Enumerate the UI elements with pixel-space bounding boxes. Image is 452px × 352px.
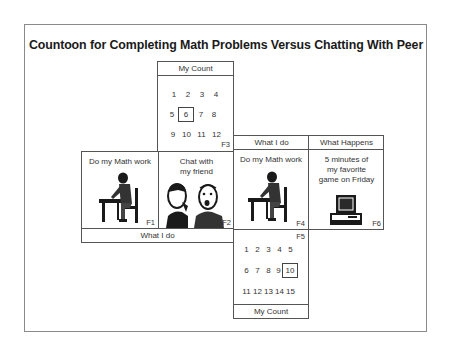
cell-f6-label-line1: 5 minutes of	[309, 155, 384, 165]
cell-f4-label: Do my Math work	[234, 155, 308, 165]
right-strip: What I do What Happens Do my Math work F…	[233, 135, 384, 230]
count-number: 8	[263, 266, 274, 275]
cell-f6-label-line2: my favorite	[309, 165, 384, 175]
top-count-box: My Count 1234 5678 9101112 F3	[157, 61, 234, 152]
count-number-boxed: 10	[283, 264, 297, 277]
count-number-boxed: 6	[179, 108, 193, 121]
computer-icon	[330, 194, 362, 226]
frame-label-f5: F5	[296, 232, 305, 241]
cell-f1: Do my Math work F1	[82, 152, 158, 229]
frame-label-f6: F6	[372, 219, 381, 228]
count-number: 12	[209, 130, 224, 139]
count-number: 6	[241, 266, 252, 275]
frame-label-f2: F2	[222, 218, 231, 227]
count-number: 10	[179, 130, 194, 139]
frame-label-f3: F3	[221, 140, 230, 149]
count-number: 9	[167, 130, 179, 139]
count-number: 3	[263, 245, 274, 254]
bottom-count-footer: My Count	[234, 304, 308, 318]
count-number: 11	[241, 287, 252, 296]
left-strip-footer: What I do	[82, 228, 233, 242]
cell-f2-label-line1: Chat with	[159, 157, 234, 167]
count-number: 14	[274, 287, 285, 296]
cell-f6-label-line3: game on Friday	[309, 175, 384, 185]
count-number: 4	[274, 245, 285, 254]
count-number: 2	[181, 90, 195, 99]
cell-f2-label: Chat with my friend	[159, 157, 234, 177]
two-people-chatting-icon	[164, 182, 226, 228]
count-number: 4	[209, 90, 223, 99]
cell-f2-label-line2: my friend	[159, 167, 234, 177]
count-number: 7	[252, 266, 263, 275]
cell-f6: 5 minutes of my favorite game on Friday …	[309, 150, 384, 230]
student-writing-at-desk-icon	[248, 171, 292, 223]
page-title: Countoon for Completing Math Problems Ve…	[0, 38, 452, 52]
count-number: 13	[263, 287, 274, 296]
student-writing-at-desk-icon	[99, 172, 143, 224]
count-number: 7	[195, 110, 207, 119]
frame-label-f4: F4	[296, 219, 305, 228]
count-number: 12	[252, 287, 263, 296]
count-number: 1	[167, 90, 181, 99]
count-number: 9	[274, 266, 283, 275]
header-what-happens: What Happens	[309, 136, 384, 149]
top-count-header: My Count	[158, 62, 233, 76]
count-number: 11	[194, 130, 209, 139]
count-number: 3	[195, 90, 209, 99]
cell-f6-label: 5 minutes of my favorite game on Friday	[309, 155, 384, 185]
count-number: 5	[167, 110, 177, 119]
count-number: 2	[252, 245, 263, 254]
left-strip: What I do Do my Math work F1 Chat with m…	[81, 151, 234, 243]
cell-f1-label: Do my Math work	[82, 157, 158, 167]
cell-f4: Do my Math work F4	[234, 150, 308, 230]
count-number: 5	[285, 245, 296, 254]
count-number: 8	[207, 110, 221, 119]
header-what-i-do: What I do	[234, 136, 309, 149]
cell-f2: Chat with my friend F2	[159, 152, 234, 229]
frame-label-f1: F1	[146, 218, 155, 227]
count-number: 1	[241, 245, 252, 254]
bottom-count-box: F5 12345 678910 1112131415 My Count	[233, 229, 309, 319]
count-number: 15	[285, 287, 296, 296]
